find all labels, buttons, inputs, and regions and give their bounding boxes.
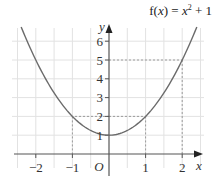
y-tick-label: 1 xyxy=(97,128,104,143)
x-axis-arrow-icon xyxy=(194,151,203,158)
x-tick-label: 1 xyxy=(142,160,149,175)
x-tick-label: −2 xyxy=(29,160,43,175)
y-tick-label: 4 xyxy=(97,71,104,86)
tick-labels: −2−112123456Oxy xyxy=(29,19,202,175)
y-axis-arrow-icon xyxy=(106,24,113,33)
origin-label: O xyxy=(94,159,104,174)
axes xyxy=(14,24,203,176)
y-tick-label: 3 xyxy=(97,90,104,105)
plot-area: −2−112123456Oxy xyxy=(0,0,218,184)
y-tick-label: 5 xyxy=(97,53,104,68)
x-tick-label: −1 xyxy=(65,160,79,175)
y-tick-label: 2 xyxy=(97,109,104,124)
y-tick-label: 6 xyxy=(97,34,104,49)
x-tick-label: 2 xyxy=(179,160,186,175)
x-axis-label: x xyxy=(195,158,202,173)
y-axis-label: y xyxy=(97,19,105,34)
